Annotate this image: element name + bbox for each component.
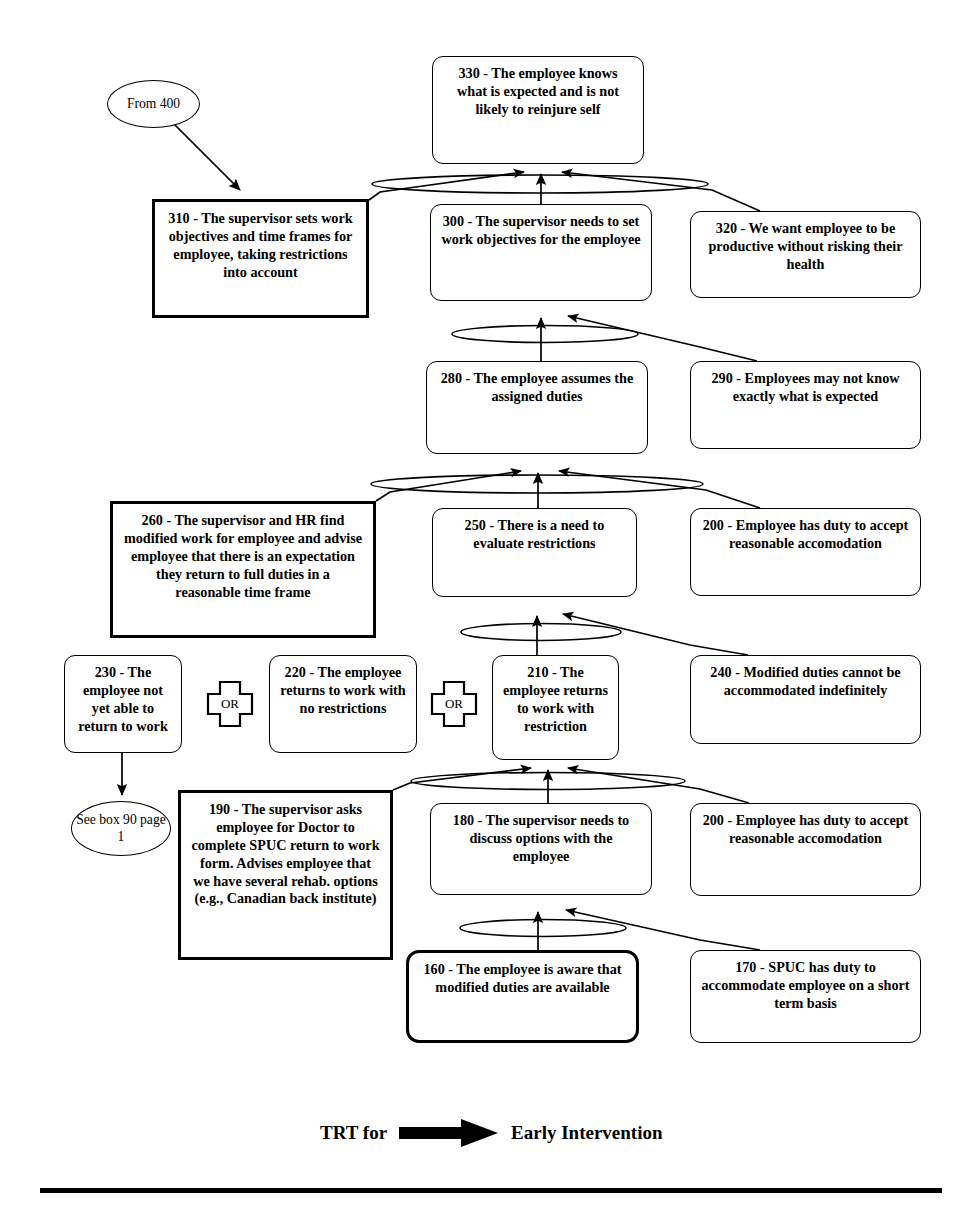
node-260[interactable]: 260 - The supervisor and HR find modifie…: [110, 501, 376, 638]
node-290-label: 290 - Employees may not know exactly wha…: [691, 362, 920, 406]
or-gate-1-label: OR: [206, 680, 254, 728]
node-260-label: 260 - The supervisor and HR find modifie…: [113, 504, 373, 601]
node-300[interactable]: 300 - The supervisor needs to set work o…: [430, 204, 652, 301]
node-320-label: 320 - We want employee to be productive …: [691, 212, 920, 274]
node-210-label: 210 - The employee returns to work with …: [493, 656, 618, 736]
junction-to-250: [461, 614, 748, 655]
node-230-label: 230 - The employee not yet able to retur…: [65, 656, 181, 736]
node-290[interactable]: 290 - Employees may not know exactly wha…: [690, 361, 921, 449]
black-right-arrow: [399, 1118, 499, 1148]
node-200-upper-label: 200 - Employee has duty to accept reason…: [691, 509, 920, 553]
node-170-label: 170 - SPUC has duty to accommodate emplo…: [691, 951, 920, 1013]
node-160[interactable]: 160 - The employee is aware that modifie…: [406, 950, 639, 1043]
junction-to-280: [371, 471, 760, 508]
node-280[interactable]: 280 - The employee assumes the assigned …: [426, 361, 648, 454]
node-210[interactable]: 210 - The employee returns to work with …: [492, 655, 619, 760]
junction-to-210: [393, 768, 749, 803]
node-330-label: 330 - The employee knows what is expecte…: [433, 57, 643, 119]
node-190[interactable]: 190 - The supervisor asks employee for D…: [178, 790, 393, 960]
footer-right-text: Early Intervention: [511, 1122, 662, 1144]
arrow-from400-to-310: [170, 120, 240, 190]
connector-see-box-90-label: See box 90 page 1: [72, 812, 170, 845]
or-gate-1[interactable]: OR: [206, 680, 254, 728]
junction-to-180: [460, 910, 760, 950]
node-220[interactable]: 220 - The employee returns to work with …: [269, 655, 417, 753]
node-230[interactable]: 230 - The employee not yet able to retur…: [64, 655, 182, 753]
node-200-lower-label: 200 - Employee has duty to accept reason…: [691, 804, 920, 848]
node-330[interactable]: 330 - The employee knows what is expecte…: [432, 56, 644, 164]
node-250[interactable]: 250 - There is a need to evaluate restri…: [432, 508, 637, 597]
node-240[interactable]: 240 - Modified duties cannot be accommod…: [690, 655, 921, 744]
footer-left-text: TRT for: [320, 1122, 387, 1144]
node-160-label: 160 - The employee is aware that modifie…: [409, 953, 636, 997]
node-310-label: 310 - The supervisor sets work objective…: [155, 202, 366, 282]
connector-from-400-label: From 400: [127, 96, 180, 112]
or-gate-2-label: OR: [430, 680, 478, 728]
node-240-label: 240 - Modified duties cannot be accommod…: [691, 656, 920, 700]
node-200-upper[interactable]: 200 - Employee has duty to accept reason…: [690, 508, 921, 596]
node-170[interactable]: 170 - SPUC has duty to accommodate emplo…: [690, 950, 921, 1043]
junction-to-300: [452, 316, 757, 361]
node-320[interactable]: 320 - We want employee to be productive …: [690, 211, 921, 298]
node-300-label: 300 - The supervisor needs to set work o…: [431, 205, 651, 249]
node-190-label: 190 - The supervisor asks employee for D…: [181, 793, 390, 908]
node-220-label: 220 - The employee returns to work with …: [270, 656, 416, 718]
connector-see-box-90[interactable]: See box 90 page 1: [71, 801, 171, 856]
node-200-lower[interactable]: 200 - Employee has duty to accept reason…: [690, 803, 921, 896]
node-180-label: 180 - The supervisor needs to discuss op…: [431, 804, 651, 866]
node-180[interactable]: 180 - The supervisor needs to discuss op…: [430, 803, 652, 895]
node-310[interactable]: 310 - The supervisor sets work objective…: [152, 199, 369, 318]
or-gate-2[interactable]: OR: [430, 680, 478, 728]
node-250-label: 250 - There is a need to evaluate restri…: [433, 509, 636, 553]
node-280-label: 280 - The employee assumes the assigned …: [427, 362, 647, 406]
connector-from-400[interactable]: From 400: [107, 80, 200, 128]
flowchart-page: 330 - The employee knows what is expecte…: [0, 0, 980, 1214]
bottom-rule: [40, 1188, 942, 1193]
footer-caption: TRT for Early Intervention: [320, 1118, 663, 1148]
